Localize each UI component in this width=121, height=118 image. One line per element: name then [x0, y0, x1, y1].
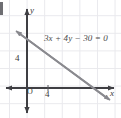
line-graph-figure: y x O 4 4 3x + 4y − 30 = 0: [0, 0, 121, 118]
origin-label: O: [27, 88, 33, 96]
y-tick-label-4: 4: [15, 54, 20, 63]
y-axis-label: y: [30, 6, 34, 15]
x-axis-label: x: [110, 89, 114, 98]
x-tick-label-4: 4: [45, 90, 50, 99]
plotted-line-segment-lower-right: [20, 34, 110, 100]
equation-annotation: 3x + 4y − 30 = 0: [44, 34, 108, 43]
